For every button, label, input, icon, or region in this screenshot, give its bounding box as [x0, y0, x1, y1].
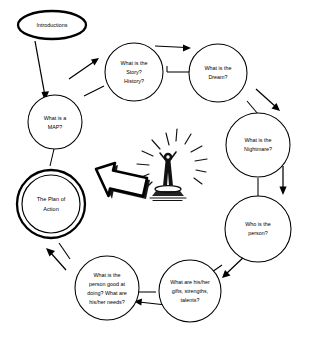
node-plan-of-action[interactable]: The Plan of Action	[17, 170, 85, 238]
good-at-needs-label-line2: person good at	[89, 281, 125, 287]
dream-circle[interactable]	[189, 44, 247, 102]
who-is-the-person-label-line2: person?	[248, 230, 267, 236]
figure-body	[163, 161, 173, 186]
big-arrow-to-plan	[96, 163, 150, 199]
who-is-the-person-label-line1: Who is the	[245, 221, 270, 227]
good-at-needs-label-line4: his/her needs?	[89, 299, 124, 305]
arrow-nightmare-to-who	[279, 166, 286, 195]
story-history-label-line1: What is the	[121, 60, 148, 66]
node-story-history[interactable]: What is the Story? History?	[105, 43, 163, 101]
good-at-needs-circle[interactable]	[75, 256, 139, 320]
what-is-a-map-label-line1: What is a	[44, 115, 66, 121]
nightmare-label-line2: Nightmare?	[244, 146, 272, 152]
arrow-introductions-to-map	[35, 41, 49, 101]
gifts-label-line1: What are his/her	[170, 279, 210, 285]
what-is-a-map-label-line2: MAP?	[48, 124, 63, 130]
node-good-at-needs[interactable]: What is the person good at doing? What a…	[75, 256, 139, 320]
node-dream[interactable]: What is the Dream?	[189, 44, 247, 102]
dream-label-line2: Dream?	[208, 74, 227, 80]
story-history-label-line3: History?	[124, 78, 144, 84]
connector-plan-map	[50, 149, 54, 166]
nightmare-label-line1: What is the	[245, 137, 272, 143]
good-at-needs-label-line3: doing? What are	[87, 290, 127, 296]
connector-dream-nightmare	[247, 101, 258, 114]
plan-of-action-label-line1: The Plan of	[37, 196, 66, 202]
arrow-story-to-dream	[155, 45, 191, 52]
node-what-is-a-map[interactable]: What is a MAP?	[28, 95, 82, 149]
introductions-label: Introductions	[37, 22, 68, 28]
story-history-label-line2: Story?	[126, 69, 142, 75]
what-is-a-map-circle[interactable]	[28, 95, 82, 149]
plan-of-action-inner-ring	[22, 175, 80, 233]
who-is-the-person-circle[interactable]	[225, 196, 291, 262]
map-process-diagram: Introductions What is a MAP? What is the…	[0, 0, 311, 339]
dream-label-line1: What is the	[205, 65, 232, 71]
node-introductions[interactable]: Introductions	[18, 11, 86, 39]
diagram-canvas: Introductions What is a MAP? What is the…	[0, 0, 311, 339]
arrow-map-to-story	[69, 58, 99, 79]
connector-map-story	[84, 86, 104, 96]
good-at-needs-label-line1: What is the	[94, 272, 121, 278]
gifts-label-line3: talents?	[181, 297, 200, 303]
arrow-goodat-to-plan	[46, 248, 66, 270]
nightmare-circle[interactable]	[226, 113, 290, 177]
gifts-label-line2: gifts, strengths,	[172, 288, 209, 294]
node-nightmare[interactable]: What is the Nightmare?	[226, 113, 290, 177]
figure-platform	[150, 186, 186, 201]
arrow-dream-to-nightmare	[256, 89, 280, 111]
node-gifts-strengths-talents[interactable]: What are his/her gifts, strengths, talen…	[159, 260, 221, 322]
figure-face	[166, 155, 169, 158]
node-who-is-the-person[interactable]: Who is the person?	[225, 196, 291, 262]
plan-of-action-label-line2: Action	[43, 206, 59, 212]
connector-goodat-plan	[59, 243, 70, 259]
